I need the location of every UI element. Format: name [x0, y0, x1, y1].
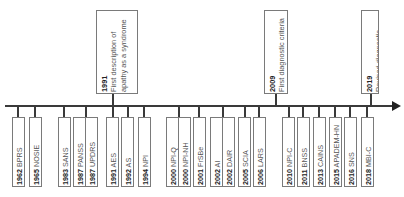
- timeline-tick: [34, 105, 36, 117]
- instrument-label: 2011 BNSS: [301, 148, 308, 185]
- instrument-label: 1983 SANS: [62, 147, 69, 185]
- instrument-label: 1965 NOSIE: [33, 145, 40, 185]
- instrument-label: 1994 NPI: [142, 155, 149, 185]
- instrument-label: 2000 NPI-NH: [182, 142, 189, 185]
- timeline-instrument-box: 1991 AES: [106, 117, 119, 187]
- timeline-tick: [244, 105, 246, 117]
- timeline-instrument-box: 1994 NPI: [138, 117, 151, 187]
- instrument-name: APADEM-HN: [332, 125, 341, 168]
- instrument-year: 2015: [332, 169, 341, 185]
- instrument-name: NPI-C: [285, 147, 294, 167]
- instrument-name: AES: [109, 153, 118, 167]
- instrument-label: 2005 SCIA: [242, 150, 249, 185]
- timeline-instrument-box: 1983 SANS: [58, 117, 71, 187]
- timeline-instrument-box: 2011 BNSS: [297, 117, 310, 187]
- instrument-name: PANSS: [76, 143, 85, 167]
- timeline-tick: [258, 105, 260, 117]
- instrument-label: 2015 APADEM-HN: [333, 125, 340, 185]
- instrument-name: NPI-Q: [169, 147, 178, 167]
- milestone-description-line: First diagnostic criteria: [277, 18, 286, 92]
- timeline-milestone-box: 2019Revised diagnosticcriteria: [361, 10, 379, 94]
- timeline-milestone-box: 1991First description ofapathy as a synd…: [96, 10, 138, 94]
- instrument-name: SCIA: [241, 150, 250, 167]
- instrument-label: 1992 AS: [125, 158, 132, 185]
- timeline-tick: [127, 105, 129, 117]
- instrument-label: 2013 CAINS: [317, 145, 324, 185]
- timeline-instrument-box: 2016 SNS: [344, 117, 357, 187]
- instrument-year: 1987: [76, 169, 85, 185]
- instrument-label: 2002 AI: [214, 161, 221, 185]
- milestone-year: 1991: [100, 76, 109, 92]
- instrument-name: NPI-NH: [181, 142, 190, 167]
- instrument-label: 1962 BPRS: [16, 147, 23, 185]
- timeline-instrument-box: 1962 BPRS: [12, 117, 25, 187]
- timeline-instrument-box: 1965 NOSIE: [29, 117, 42, 187]
- instrument-year: 2001: [196, 169, 205, 185]
- milestone-text: 2019Revised diagnosticcriteria: [365, 30, 379, 92]
- instrument-label: 1991 AES: [110, 153, 117, 185]
- instrument-name: NOSIE: [32, 145, 41, 167]
- instrument-year: 2010: [285, 169, 294, 185]
- instrument-year: 2011: [300, 169, 309, 185]
- instrument-name: BNSS: [300, 148, 309, 168]
- milestone-year: 2009: [268, 76, 277, 92]
- timeline-tick: [334, 105, 336, 117]
- timeline-instrument-box: 2000 NPI-NH: [178, 117, 191, 187]
- instrument-name: AS: [124, 158, 133, 168]
- instrument-year: 1987: [88, 169, 97, 185]
- timeline-instrument-box: 2010 NPI-C: [282, 117, 295, 187]
- instrument-year: 1992: [124, 169, 133, 185]
- instrument-name: LARS: [256, 148, 265, 167]
- instrument-year: 1983: [61, 169, 70, 185]
- timeline-instrument-box: 2015 APADEM-HN: [329, 117, 342, 187]
- timeline-tick: [198, 105, 200, 117]
- timeline-tick: [143, 105, 145, 117]
- instrument-name: FrSBe: [196, 147, 205, 167]
- timeline-tick: [112, 105, 114, 117]
- timeline-tick: [288, 105, 290, 117]
- instrument-year: 2013: [316, 169, 325, 185]
- instrument-year: 2018: [364, 169, 373, 185]
- instrument-name: SNS: [347, 152, 356, 167]
- instrument-year: 2000: [169, 169, 178, 185]
- instrument-label: 2010 NPI-C: [286, 147, 293, 185]
- instrument-label: 2000 NPI-Q: [170, 147, 177, 185]
- timeline-instrument-box: 1992 AS: [121, 117, 134, 187]
- timeline-instrument-box: 2001 FrSBe: [193, 117, 206, 187]
- milestone-tick: [370, 94, 372, 105]
- timeline-tick: [366, 105, 368, 117]
- instrument-name: BPRS: [15, 147, 24, 167]
- instrument-year: 1994: [141, 169, 150, 185]
- instrument-name: SANS: [61, 147, 70, 167]
- timeline-tick: [318, 105, 320, 117]
- instrument-year: 1962: [15, 169, 24, 185]
- milestone-text: 1991First description ofapathy as a synd…: [100, 19, 128, 92]
- instrument-name: DAIR: [225, 150, 234, 167]
- instrument-year: 1965: [32, 169, 41, 185]
- instrument-year: 2016: [347, 169, 356, 185]
- instrument-year: 2002: [225, 169, 234, 185]
- instrument-year: 2000: [181, 169, 190, 185]
- milestone-year: 2019: [365, 76, 374, 92]
- instrument-label: 2002 DAIR: [226, 150, 233, 185]
- timeline-tick: [17, 105, 19, 117]
- instrument-label: 1987 UPDRS: [89, 142, 96, 185]
- instrument-label: 2016 SNS: [348, 152, 355, 185]
- timeline-tick: [63, 105, 65, 117]
- timeline-instrument-box: 2002 DAIR: [222, 117, 235, 187]
- instrument-label: 2018 MBI-C: [365, 147, 372, 185]
- timeline-tick: [349, 105, 351, 117]
- milestone-description-line: Revised diagnostic: [374, 30, 379, 92]
- timeline-instrument-box: 2005 SCIA: [238, 117, 251, 187]
- timeline-instrument-box: 1987 UPDRS: [85, 117, 98, 187]
- instrument-year: 2005: [241, 169, 250, 185]
- timeline-tick: [85, 105, 87, 117]
- timeline-milestone-box: 2009First diagnostic criteria: [264, 10, 288, 94]
- timeline-instrument-box: 2013 CAINS: [313, 117, 326, 187]
- milestone-description-line: First description of: [109, 32, 118, 92]
- instrument-name: UPDRS: [88, 142, 97, 167]
- instrument-name: MBI-C: [364, 147, 373, 167]
- milestone-tick: [112, 94, 114, 105]
- instrument-label: 2006 LARS: [257, 148, 264, 185]
- apathy-assessment-timeline: 1962 BPRS1965 NOSIE1983 SANS1987 PANSS19…: [0, 0, 404, 197]
